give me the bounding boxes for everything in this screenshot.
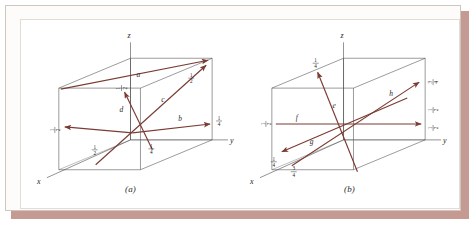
panel-b-frac-right-low: 1 2	[427, 125, 439, 131]
svg-text:1: 1	[218, 115, 221, 121]
panel-a-vector-a	[61, 60, 208, 89]
panel-a-axis-z-label: z	[127, 31, 131, 40]
panel-a-vector-a-label: a	[136, 70, 140, 79]
svg-text:1: 1	[273, 155, 276, 161]
svg-text:1: 1	[150, 143, 153, 149]
svg-text:4: 4	[292, 172, 295, 178]
panel-a-vector-left	[65, 127, 133, 133]
panel-a: z y x a b c	[21, 20, 240, 208]
panel-b-vector-f-label: f	[296, 113, 299, 122]
panel-a-axis-y-label: y	[229, 136, 234, 145]
panel-b-caption: (b)	[240, 184, 459, 194]
panel-a-vector-d	[125, 92, 153, 150]
panel-a-vector-d-label: d	[120, 105, 124, 114]
plate-shadow-right	[461, 11, 469, 219]
panel-b-frac-h-right-top: 3 4	[427, 79, 439, 85]
svg-text:2: 2	[433, 126, 439, 129]
svg-text:4: 4	[433, 80, 439, 83]
figure-root: z y x a b c	[0, 0, 475, 229]
panel-a-frac-b-right: 1 4	[216, 115, 222, 127]
panel-a-frac-left-edge: 1 2	[49, 127, 61, 133]
svg-text:4: 4	[218, 121, 221, 127]
panel-a-frac-a-z: 1 2	[115, 85, 127, 91]
panel-b: z y x e f g h	[240, 20, 459, 208]
panel-b-vector-e-label: e	[333, 101, 337, 110]
svg-text:4: 4	[150, 149, 153, 155]
svg-text:1: 1	[190, 72, 193, 78]
svg-text:2: 2	[433, 108, 439, 111]
panel-a-frac-c-right: 1 2	[188, 72, 194, 84]
panel-a-vector-b-label: b	[178, 114, 182, 123]
svg-text:2: 2	[190, 78, 193, 84]
svg-text:1: 1	[260, 122, 266, 125]
figure-inner-frame: z y x a b c	[20, 19, 460, 209]
svg-text:2: 2	[93, 150, 96, 156]
svg-text:1: 1	[93, 144, 96, 150]
svg-text:1: 1	[427, 108, 433, 111]
svg-text:1: 1	[314, 57, 317, 63]
plate-shadow-bottom	[11, 211, 469, 219]
figure-plate: z y x a b c	[5, 5, 461, 211]
svg-text:3: 3	[427, 80, 433, 83]
panel-b-axis-z-label: z	[340, 31, 344, 40]
panel-a-frac-c-bottom: 1 4	[148, 143, 154, 155]
panel-b-frac-f-left: 1 2	[260, 121, 272, 127]
svg-text:1: 1	[427, 126, 433, 129]
panel-a-diagram: z y x a b c	[21, 20, 240, 208]
svg-text:4: 4	[273, 162, 276, 168]
panel-a-caption: (a)	[21, 184, 240, 194]
panel-b-frac-right-mid: 1 2	[427, 107, 439, 113]
panel-b-axis-y-label: y	[442, 136, 447, 145]
panel-b-vector-h-label: h	[389, 89, 393, 98]
svg-text:3: 3	[292, 165, 295, 171]
panel-b-frac-g-lower-left: 1 4	[271, 155, 277, 167]
svg-text:2: 2	[55, 128, 61, 131]
svg-text:4: 4	[314, 63, 317, 69]
svg-text:2: 2	[266, 122, 272, 125]
panel-b-vector-g-label: g	[310, 137, 314, 146]
svg-text:1: 1	[49, 128, 55, 131]
panel-b-diagram: z y x e f g h	[240, 20, 459, 208]
svg-text:1: 1	[115, 86, 121, 89]
panel-b-vector-g	[282, 98, 407, 152]
svg-text:2: 2	[122, 86, 128, 89]
panel-b-frac-e-top: 1 4	[313, 57, 319, 69]
panel-b-frac-x-lower-left: 3 4	[291, 165, 297, 177]
